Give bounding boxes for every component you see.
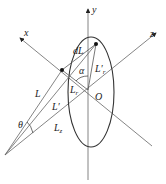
alpha-label: α xyxy=(79,65,85,76)
L-line xyxy=(5,70,62,155)
origin-label: O xyxy=(95,91,102,102)
Lr-prime-label: L′r xyxy=(94,63,106,76)
Lr-label: Lr xyxy=(69,84,79,97)
theta-label: θ xyxy=(18,119,23,130)
y-axis-label: y xyxy=(91,4,97,15)
loop-point-1 xyxy=(60,68,64,72)
Lz-label: Lz xyxy=(53,122,63,135)
alpha-arc xyxy=(76,76,88,81)
z-axis-label: z xyxy=(149,28,154,39)
L-prime-label: L′ xyxy=(51,101,61,112)
L-prime-line xyxy=(5,44,96,155)
L-label: L xyxy=(34,88,41,99)
loop-geometry-diagram: y x z O dL α L′r Lr L L′ θ Lz xyxy=(0,0,166,184)
loop-point-2 xyxy=(94,42,98,46)
dL-label: dL xyxy=(73,45,84,56)
x-axis-label: x xyxy=(23,27,29,38)
